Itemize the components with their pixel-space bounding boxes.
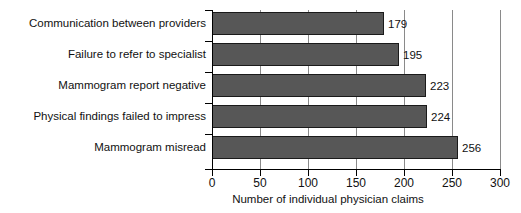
- bar: [212, 12, 384, 35]
- x-axis-tick-label: 150: [346, 177, 366, 190]
- x-axis-title-row: Number of individual physician claims: [0, 193, 521, 206]
- category-label: Mammogram report negative: [0, 79, 206, 91]
- x-axis-tick-label: 200: [394, 177, 414, 190]
- x-axis-tick-label: 250: [442, 177, 462, 190]
- y-axis-tick: [205, 72, 212, 73]
- category-label: Failure to refer to specialist: [0, 48, 206, 60]
- bar: [212, 74, 426, 97]
- bar-value-label: 195: [403, 49, 422, 61]
- x-axis-tick-label: 0: [209, 177, 216, 190]
- bar-value-label: 179: [388, 18, 407, 30]
- x-axis-title: Number of individual physician claims: [232, 193, 424, 206]
- category-label: Communication between providers: [0, 17, 206, 29]
- y-axis-line: [212, 10, 213, 170]
- bar: [212, 43, 399, 66]
- bar: [212, 105, 427, 128]
- bar-chart: Communication between providers Failure …: [0, 0, 521, 213]
- category-label: Physical findings failed to impress: [0, 110, 206, 122]
- plot-area: 179 195 223 224 256: [212, 10, 500, 170]
- category-label: Mammogram misread: [0, 141, 206, 153]
- x-axis-tick-label: 50: [253, 177, 266, 190]
- y-axis-tick: [205, 103, 212, 104]
- y-axis-tick: [205, 134, 212, 135]
- x-axis-tick-label: 300: [490, 177, 510, 190]
- bar-value-label: 256: [462, 142, 481, 154]
- gridline: [500, 10, 501, 170]
- y-axis-tick: [205, 41, 212, 42]
- y-axis-tick: [205, 169, 212, 170]
- bar-value-label: 224: [431, 111, 450, 123]
- category-axis-labels: Communication between providers Failure …: [0, 0, 206, 213]
- y-axis-tick: [205, 10, 212, 11]
- bar-value-label: 223: [430, 80, 449, 92]
- bar: [212, 136, 458, 159]
- x-axis-tick-label: 100: [298, 177, 318, 190]
